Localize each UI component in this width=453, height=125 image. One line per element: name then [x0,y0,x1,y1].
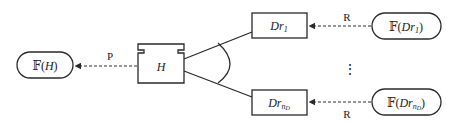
node-h: H [138,44,184,83]
edge-p-label: P [107,50,113,62]
node-dr-n-label: DrnD [267,96,290,111]
branch-arc [218,43,230,83]
node-dr-1: Dr1 [252,13,307,38]
node-f-h: 𝔽(H) [17,52,73,78]
edge-r-bottom: R [314,102,371,120]
ellipsis: ⋮ [343,62,357,77]
edge-r-bottom-label: R [343,108,351,120]
node-f-dr-1-label: 𝔽(Dr1) [389,20,423,35]
branch-line-top [184,32,252,59]
node-f-dr-n-label: 𝔽(DrnD) [387,96,425,111]
edge-p: P [80,50,137,66]
branch-connector [184,32,252,97]
diagram-canvas: 𝔽(H) P H Dr1 DrnD R R ⋮ 𝔽(Dr1) [0,0,453,125]
node-dr-1-label: Dr1 [269,19,287,34]
branch-line-bottom [184,71,252,97]
edge-r-top-label: R [343,11,351,23]
node-f-dr-1: 𝔽(Dr1) [372,13,441,39]
node-dr-n: DrnD [252,90,307,115]
node-f-dr-n: 𝔽(DrnD) [372,89,441,115]
node-f-h-label: 𝔽(H) [32,59,57,73]
edge-r-top: R [314,11,371,26]
node-h-label: H [156,60,167,74]
